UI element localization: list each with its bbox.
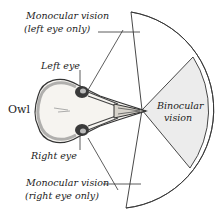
label-mono-left-1: Monocular vision [26,10,109,21]
label-mono-right-2: (right eye only) [25,190,99,201]
leader-mono-left-diag [88,30,123,90]
label-right-eye: Right eye [31,150,77,161]
label-binocular-1: Binocular [157,100,204,111]
label-left-eye: Left eye [41,60,80,71]
label-mono-left-2: (left eye only) [24,23,90,34]
label-mono-right-1: Monocular vision [26,177,109,188]
owl-head-illustration [35,79,146,142]
label-owl: Owl [8,104,30,115]
label-binocular-2: vision [164,112,192,123]
